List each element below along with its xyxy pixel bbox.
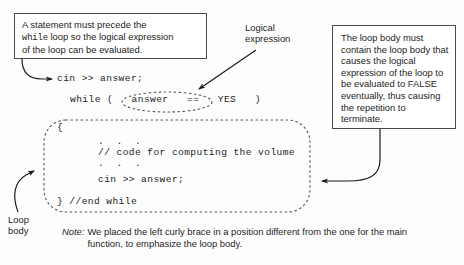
figure-note: Note:We placed the left curly brace in a… — [62, 226, 434, 250]
label-loop-body: Loop body — [8, 214, 29, 237]
callout-left-line2-rest: loop so the logical expression — [48, 31, 174, 42]
callout-left-line2: while loop so the logical expression — [22, 31, 200, 45]
arrow-loop-body-label-to-box — [15, 171, 34, 212]
callout-left-line1: A statement must precede the — [22, 19, 200, 31]
code-line-ellipsis-upper: . . . — [98, 136, 141, 147]
code-line-comment: // code for computing the volume — [98, 147, 295, 158]
note-label: Note: — [62, 226, 84, 237]
note-text: We placed the left curly brace in a posi… — [87, 226, 427, 250]
callout-left-keyword: while — [22, 33, 48, 43]
figure-canvas: A statement must precede the while loop … — [0, 0, 464, 265]
code-line-while-condition: while ( answer == YES ) — [70, 94, 261, 105]
label-logical-expression: Logical expression — [245, 22, 290, 45]
callout-left-line3: of the loop can be evaluated. — [22, 44, 200, 56]
code-line-open-brace: { — [57, 122, 63, 133]
callout-loop-body-must-terminate: The loop body must contain the loop body… — [332, 25, 456, 129]
arrow-logical-expression-to-condition — [199, 50, 256, 89]
code-line-cin-before-loop: cin >> answer; — [57, 73, 143, 84]
code-line-cin-in-body: cin >> answer; — [98, 174, 184, 185]
code-line-end-while: } //end while — [57, 196, 137, 207]
callout-statement-precedes-while: A statement must precede the while loop … — [14, 13, 207, 59]
arrow-statement-to-cin — [22, 59, 52, 79]
arrow-loop-body-note-to-box — [322, 129, 380, 181]
code-line-ellipsis-lower: . . . — [98, 158, 141, 169]
